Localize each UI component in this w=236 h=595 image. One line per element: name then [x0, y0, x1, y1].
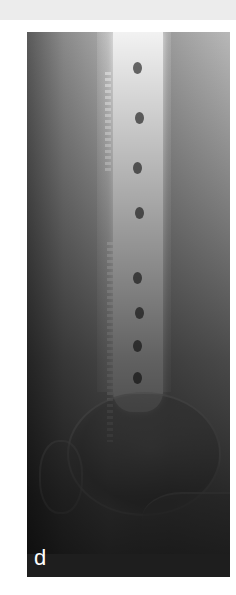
exposure-gradient — [27, 32, 230, 577]
header-strip — [0, 0, 236, 20]
panel-label: d — [34, 546, 46, 570]
xray-image: d — [27, 32, 230, 577]
image-bottom-band — [27, 554, 230, 577]
